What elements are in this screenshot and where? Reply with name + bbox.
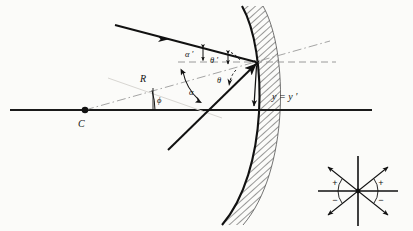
center-of-curvature-dot	[82, 107, 89, 114]
label-phi: ϕ	[157, 95, 162, 105]
inset-sign-upper-left: +	[332, 178, 337, 188]
figure-canvas: C R ϕ α ′ θ ′ θ α y = y ′ + +	[0, 0, 413, 231]
label-alpha-prime: α ′	[185, 49, 194, 59]
optics-diagram: C R ϕ α ′ θ ′ θ α y = y ′ + +	[0, 0, 413, 231]
label-center-of-curvature: C	[78, 118, 85, 129]
label-theta: θ	[217, 75, 221, 85]
inset-origin-dot	[356, 189, 361, 194]
mirror-surface	[222, 6, 281, 225]
reflected-ray	[168, 64, 256, 150]
height-arrow	[254, 66, 257, 106]
inset-sign-upper-right: +	[378, 178, 383, 188]
label-radius: R	[139, 73, 146, 84]
inset-sign-lower-left: −	[332, 195, 337, 205]
angle-phi-marker	[152, 88, 155, 110]
inset-sign-lower-right: −	[378, 195, 383, 205]
label-theta-prime: θ ′	[210, 55, 218, 65]
mirror-hatching	[222, 6, 281, 225]
sign-convention-inset: + + − −	[318, 156, 398, 226]
auxiliary-construction-line	[108, 78, 222, 118]
label-alpha: α	[189, 87, 194, 97]
label-height: y = y ′	[271, 91, 298, 102]
angle-alpha-marker	[181, 69, 203, 104]
